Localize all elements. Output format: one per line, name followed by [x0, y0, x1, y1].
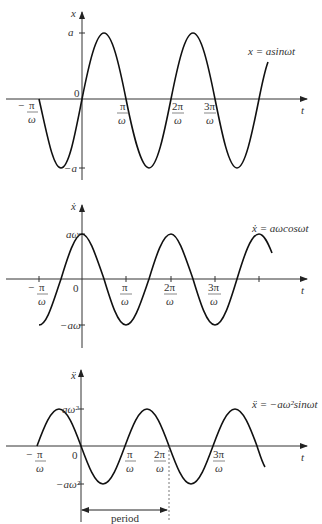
svg-text:ω: ω: [36, 462, 44, 474]
svg-text:π: π: [127, 448, 133, 460]
y-axis-label: ẋ: [70, 200, 76, 212]
svg-text:−: −: [26, 448, 32, 460]
tick-2pi-over-omega: 2π ω: [164, 281, 177, 307]
svg-text:ω: ω: [126, 462, 134, 474]
svg-text:π: π: [120, 100, 126, 112]
amplitude-label: aω²: [62, 403, 79, 415]
svg-text:3π: 3π: [208, 281, 220, 293]
svg-text:ω: ω: [28, 113, 36, 125]
y-axis-label: ẍ: [70, 369, 76, 381]
svg-text:ω: ω: [38, 295, 46, 307]
svg-text:3π: 3π: [213, 448, 225, 460]
panel-acceleration: period ẍ aω² −aω² 0 t ẍ = −aω²sinωt − π …: [6, 369, 318, 524]
svg-text:ω: ω: [121, 295, 129, 307]
period-label: period: [111, 512, 140, 524]
svg-text:ω: ω: [206, 114, 214, 126]
t-axis-label: t: [301, 104, 305, 116]
amplitude-label: a: [68, 26, 74, 38]
tick-2pi-over-omega: 2π ω: [172, 100, 184, 126]
svg-text:π: π: [122, 281, 128, 293]
svg-text:ω: ω: [118, 114, 126, 126]
panel-velocity: ẋ aω −aω 0 t ẋ = aωcosωt − π ω π ω 2π ω …: [6, 200, 310, 348]
svg-text:ω: ω: [156, 462, 164, 474]
neg-amplitude-label: −aω²: [56, 478, 81, 490]
svg-text:ω: ω: [166, 295, 174, 307]
equation-label: ẍ = −aω²sinωt: [251, 398, 318, 410]
origin-label: 0: [73, 282, 79, 294]
panel-displacement: x a −a 0 t x = asinωt − π ω π ω 2π ω 3π …: [6, 7, 307, 180]
equation-label: ẋ = aωcosωt: [251, 222, 310, 234]
svg-text:2π: 2π: [154, 448, 166, 460]
svg-text:2π: 2π: [172, 100, 184, 112]
svg-text:π: π: [39, 281, 45, 293]
tick-3pi-over-omega: 3π ω: [204, 100, 216, 126]
neg-amplitude-label: −aω: [60, 319, 81, 331]
tick-3pi-over-omega: 3π ω: [208, 281, 221, 307]
neg-amplitude-label: −a: [64, 162, 77, 174]
equation-label: x = asinωt: [247, 45, 296, 57]
svg-text:π: π: [29, 99, 35, 111]
oscillation-diagram: x a −a 0 t x = asinωt − π ω π ω 2π ω 3π …: [0, 0, 322, 524]
svg-text:3π: 3π: [204, 100, 216, 112]
tick-pi-over-omega: π ω: [125, 448, 136, 474]
tick-neg-pi-over-omega: − π ω: [26, 448, 46, 474]
tick-pi-over-omega: π ω: [120, 281, 132, 307]
svg-text:ω: ω: [174, 114, 182, 126]
svg-text:ω: ω: [210, 295, 218, 307]
amplitude-label: aω: [66, 228, 80, 240]
t-axis-label: t: [301, 451, 305, 463]
origin-label: 0: [74, 87, 80, 99]
t-axis-label: t: [301, 284, 305, 296]
svg-text:−: −: [28, 281, 34, 293]
tick-neg-pi-over-omega: − π ω: [28, 281, 48, 307]
origin-label: 0: [72, 449, 78, 461]
svg-text:2π: 2π: [164, 281, 176, 293]
tick-3pi-over-omega: 3π ω: [213, 448, 225, 474]
y-axis-label: x: [70, 7, 76, 19]
svg-text:−: −: [18, 99, 24, 111]
tick-2pi-over-omega: 2π ω: [154, 448, 166, 474]
tick-neg-pi-over-omega: − π ω: [18, 99, 38, 125]
displacement-curve: [39, 33, 268, 168]
svg-text:π: π: [37, 448, 43, 460]
svg-text:ω: ω: [215, 462, 223, 474]
